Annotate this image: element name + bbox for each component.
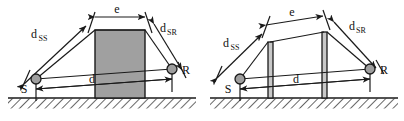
- dimension-d-right: d: [240, 69, 370, 89]
- label-dss-subscript-left: SS: [39, 34, 48, 43]
- dimension-e-right: e: [266, 5, 323, 25]
- thin-screen-left: [268, 42, 273, 98]
- dimension-dsr-right: d SR: [334, 19, 384, 74]
- label-source-right: S: [225, 82, 232, 96]
- receiver-node-left: R: [167, 63, 190, 92]
- left-panel: e d SS d SR d: [8, 2, 196, 109]
- label-d-right: d: [293, 72, 299, 86]
- label-dsr-right: d: [349, 19, 355, 33]
- diffraction-path-right: [240, 32, 370, 79]
- label-dss-right: d: [223, 36, 229, 50]
- thin-screen-right: [322, 32, 327, 98]
- source-node-right: S: [225, 74, 245, 101]
- label-e-left: e: [114, 2, 119, 16]
- label-dss-left: d: [31, 27, 37, 41]
- label-receiver-left: R: [182, 63, 190, 77]
- label-dsr-subscript-right: SR: [356, 26, 366, 35]
- label-d-left: d: [89, 72, 95, 86]
- right-panel: e d SS d SR d: [210, 5, 398, 109]
- label-receiver-right: R: [380, 63, 388, 77]
- diffraction-diagram-figure: e d SS d SR d: [0, 0, 404, 121]
- obstacle-block-left: [95, 30, 145, 98]
- label-e-right: e: [289, 5, 294, 19]
- label-dsr-subscript-left: SR: [167, 28, 177, 37]
- label-dss-subscript-right: SS: [231, 43, 240, 52]
- diagram-canvas: e d SS d SR d: [0, 0, 404, 121]
- source-node-left: S: [21, 74, 41, 101]
- receiver-node-right: R: [365, 63, 388, 92]
- label-dsr-left: d: [160, 21, 166, 35]
- dimension-e-left: e: [95, 2, 145, 17]
- ground-right: [210, 98, 398, 109]
- label-source-left: S: [21, 82, 28, 96]
